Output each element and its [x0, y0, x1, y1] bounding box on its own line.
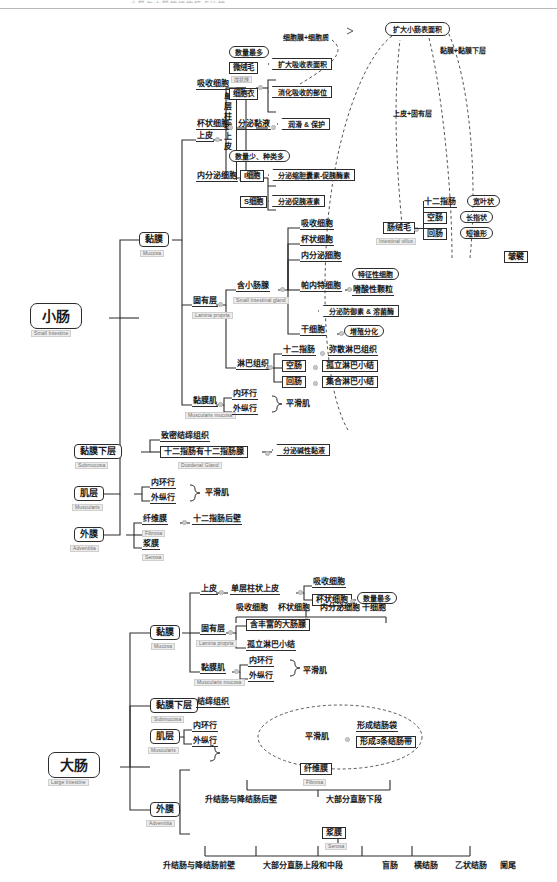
node-large-intestine-en: Large Intestine	[48, 779, 89, 786]
node-si-m-inner[interactable]: 内环行	[150, 479, 176, 489]
node-si-gland-cell-0[interactable]: 吸收细胞	[300, 220, 334, 230]
node-li-fibrosa-site-1: 大部分直肠下段	[326, 796, 382, 804]
node-si-villus[interactable]: 肠绒毛	[383, 222, 415, 234]
connector-dot	[268, 365, 273, 370]
node-si-muscularis[interactable]: 肌层	[74, 486, 104, 501]
node-si-s-cell[interactable]: S细胞	[240, 196, 267, 208]
node-si-gland-cell-2[interactable]: 内分泌细胞	[300, 252, 342, 262]
connector-dot	[280, 287, 285, 292]
node-li-mm-outer[interactable]: 外纵行	[248, 672, 274, 682]
connector-dot	[339, 331, 344, 336]
node-si-serosa[interactable]: 浆膜	[142, 540, 160, 550]
divider	[236, 88, 237, 180]
node-li-serosa-site-4: 乙状结肠	[455, 862, 487, 870]
node-si-mm-inner[interactable]: 内环行	[232, 390, 258, 400]
cut-off-title: 小肠与大肠的结构特点比较	[130, 0, 226, 3]
node-small-intestine-en: Small Intestine	[31, 330, 71, 337]
node-si-lamina-propria[interactable]: 固有层	[192, 297, 218, 307]
node-si-lymph-val-2[interactable]: 集合淋巴小结	[322, 376, 378, 388]
node-li-muscularis-en: Muscularis	[148, 747, 179, 754]
node-li-serosa-site-5: 阑尾	[500, 862, 516, 870]
node-li-m-inner[interactable]: 内环行	[192, 722, 218, 732]
node-li-adventitia[interactable]: 外膜	[150, 802, 180, 817]
node-si-mucosa[interactable]: 黏膜	[139, 232, 169, 247]
node-si-i-cell[interactable]: I细胞	[240, 170, 264, 182]
node-large-intestine[interactable]: 大肠	[48, 752, 100, 778]
node-li-epithelium[interactable]: 上皮	[200, 585, 218, 595]
node-label: 外膜	[80, 529, 98, 539]
node-li-muscularis-mucosa[interactable]: 黏膜肌	[200, 664, 226, 674]
node-si-villus-seg-1[interactable]: 空肠	[423, 212, 447, 224]
node-si-mucosa-en: Mucosa	[140, 250, 164, 257]
node-si-epithelium[interactable]: 上皮	[196, 132, 214, 142]
node-label: 肌层	[156, 731, 174, 741]
node-li-serosa[interactable]: 浆膜	[322, 827, 346, 839]
node-li-muscularis[interactable]: 肌层	[150, 729, 180, 744]
node-si-lymph-val-1[interactable]: 孤立淋巴小结	[322, 360, 378, 372]
label-epithelium-lamina: 上皮+固有层	[393, 110, 432, 117]
node-li-m-outer[interactable]: 外纵行	[192, 737, 218, 747]
node-si-goblet-cell[interactable]: 杯状细胞	[196, 120, 230, 130]
banner-alkaline-mucus: 分泌碱性黏液	[272, 444, 330, 456]
node-si-absorptive-cell[interactable]: 吸收细胞	[196, 80, 230, 90]
node-si-lymphoid-tissue[interactable]: 淋巴组织	[236, 360, 270, 370]
node-si-dense-connective-tissue[interactable]: 致密结缔组织	[160, 432, 210, 442]
node-si-fibrosa[interactable]: 纤维膜	[142, 515, 168, 525]
node-si-microvilli[interactable]: 微绒毛	[229, 62, 258, 74]
node-li-colonic-glands[interactable]: 含丰富的大肠腺	[246, 619, 310, 631]
node-li-submucosa[interactable]: 黏膜下层	[150, 698, 198, 713]
node-li-fibrosa-site-0: 升结肠与降结肠后壁	[205, 796, 277, 804]
node-si-lymph-val-0[interactable]: 弥散淋巴组织	[328, 346, 378, 356]
node-li-serosa-site-3: 横结肠	[414, 862, 438, 870]
node-label: 黏膜下层	[156, 700, 192, 710]
node-li-solitary-lymph-nodule[interactable]: 孤立淋巴小结	[246, 641, 296, 651]
node-label: 黏膜下层	[80, 446, 116, 456]
node-si-lamina-propria-en: Lamina propria	[192, 312, 233, 319]
banner-expand-surface: 扩大吸收表面积	[268, 58, 332, 70]
node-si-goal-expand-surface: 扩大小肠表面积	[385, 22, 450, 36]
node-small-intestine[interactable]: 小肠	[30, 303, 82, 329]
node-li-simple-columnar[interactable]: 单层柱状上皮	[230, 585, 280, 595]
node-li-connective-tissue[interactable]: 结缔组织	[196, 698, 230, 708]
node-label: 小肠	[42, 308, 70, 324]
node-si-muscularis-mucosa-en: Muscularis mucosa	[185, 412, 236, 419]
top-divider	[0, 8, 557, 9]
node-li-absorptive-cell[interactable]: 吸收细胞	[312, 578, 346, 588]
node-li-submucosa-en: Submucosa	[151, 716, 184, 723]
node-li-fibrosa[interactable]: 纤维膜	[300, 763, 332, 775]
node-si-gland-cell-1[interactable]: 杯状细胞	[300, 236, 334, 246]
node-si-duodenum-posterior-wall[interactable]: 十二指肠后壁	[192, 515, 242, 525]
node-si-mm-outer[interactable]: 外纵行	[232, 405, 258, 415]
node-li-gland-cell-1: 杯状细胞	[278, 604, 310, 612]
node-li-taeniae-coli[interactable]: 形成3条结肠带	[356, 736, 416, 748]
node-si-muscularis-en: Muscularis	[72, 504, 103, 511]
node-si-lymph-seg-1[interactable]: 空肠	[282, 360, 306, 372]
node-si-lymph-seg-2[interactable]: 回肠	[282, 376, 306, 388]
node-si-striated-border: 纹状缘	[231, 76, 252, 83]
node-si-duodenal-gland[interactable]: 十二指肠有十二指肠腺	[160, 446, 248, 458]
node-si-plica[interactable]: 皱襞	[504, 251, 528, 263]
node-si-villus-seg-0[interactable]: 十二指肠	[423, 198, 457, 208]
node-li-mucosa[interactable]: 黏膜	[150, 625, 180, 640]
node-label: 肌层	[80, 488, 98, 498]
node-li-mm-inner[interactable]: 内环行	[248, 657, 274, 667]
node-si-submucosa[interactable]: 黏膜下层	[74, 444, 122, 459]
node-si-muscularis-mucosa[interactable]: 黏膜肌	[192, 397, 218, 407]
node-si-glycocalyx[interactable]: 细胞衣	[229, 88, 258, 100]
node-li-haustra[interactable]: 形成结肠袋	[356, 722, 398, 732]
node-li-lamina-propria-en: Lamina propria	[196, 640, 237, 647]
divider	[423, 201, 424, 235]
connector-dot	[228, 630, 233, 635]
node-li-lamina-propria[interactable]: 固有层	[200, 625, 226, 635]
node-si-villus-seg-2[interactable]: 回肠	[423, 228, 447, 240]
connector-dot	[298, 590, 303, 595]
node-si-lymph-seg-0[interactable]: 十二指肠	[282, 346, 316, 356]
node-si-mucus-secretion[interactable]: 分泌黏液	[237, 120, 271, 130]
node-si-eosinophilic-granules[interactable]: 嗜酸性颗粒	[352, 286, 394, 296]
node-si-gland[interactable]: 含小肠腺	[236, 282, 270, 292]
node-si-m-outer[interactable]: 外纵行	[150, 494, 176, 504]
node-si-adventitia[interactable]: 外膜	[74, 527, 104, 542]
node-si-endocrine-cell[interactable]: 内分泌细胞	[196, 172, 238, 182]
node-si-paneth-cell[interactable]: 帕内特细胞	[300, 282, 342, 292]
node-si-stem-cell[interactable]: 干细胞	[300, 326, 326, 336]
